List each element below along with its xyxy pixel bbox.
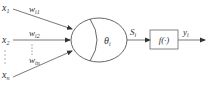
ellipsis-weights — [31, 44, 32, 54]
svg-text:Si: Si — [130, 27, 137, 38]
input-x2: x2 — [1, 34, 9, 46]
svg-text:x2: x2 — [1, 34, 9, 46]
weight-wi1: wi1 — [29, 4, 40, 15]
sum-label: Si — [130, 27, 137, 38]
threshold-theta: θi — [104, 35, 111, 47]
activation-box: f(·) — [150, 30, 178, 49]
neuron-model-diagram: x1 wi1 x2 wi2 xn win θi Si f(·) — [0, 0, 208, 88]
svg-text:xn: xn — [1, 69, 9, 81]
input-x1: x1 — [1, 2, 9, 14]
weight-win: win — [29, 55, 40, 66]
svg-text:yi: yi — [182, 27, 189, 38]
arrow-x1 — [13, 9, 72, 29]
neuron-body — [71, 18, 127, 62]
svg-text:f(·): f(·) — [159, 35, 170, 45]
arrow-xn — [13, 51, 72, 77]
svg-text:θi: θi — [104, 35, 111, 47]
svg-text:wi2: wi2 — [29, 28, 40, 39]
svg-text:wi1: wi1 — [29, 4, 40, 15]
svg-text:win: win — [29, 55, 40, 66]
input-xn: xn — [1, 69, 9, 81]
ellipsis-inputs — [4, 50, 5, 63]
svg-text:x1: x1 — [1, 2, 9, 14]
output-label: yi — [182, 27, 189, 38]
weight-wi2: wi2 — [29, 28, 40, 39]
